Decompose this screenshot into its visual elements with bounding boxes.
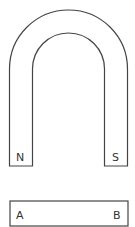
bar-object [10, 201, 128, 226]
bar-end-a-label: A [16, 210, 24, 221]
north-pole-label: N [16, 152, 24, 163]
diagram-canvas [0, 0, 135, 227]
south-pole-label: S [112, 152, 119, 163]
horseshoe-magnet [10, 10, 128, 166]
bar-end-b-label: B [113, 210, 121, 221]
